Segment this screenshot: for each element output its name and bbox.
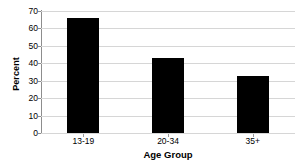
plot-area <box>41 11 295 133</box>
y-axis-tick-label: 10 <box>21 111 38 120</box>
y-axis-tick-mark <box>38 11 41 12</box>
grid-line <box>41 11 295 12</box>
y-axis-tick-label: 50 <box>21 42 38 51</box>
y-axis-tick-label: 60 <box>21 24 38 33</box>
y-axis-tick-label: 20 <box>21 94 38 103</box>
bar <box>152 58 184 133</box>
y-axis-tick-label: 40 <box>21 59 38 68</box>
bar <box>237 76 269 133</box>
bar-chart-figure: Percent 010203040506070 13-1920-3435+ Ag… <box>0 0 305 165</box>
y-axis-tick-label: 30 <box>21 76 38 85</box>
x-axis-tick-mark <box>253 134 254 137</box>
x-axis-tick-mark <box>83 134 84 137</box>
bar <box>67 18 99 133</box>
y-axis-tick-mark <box>38 63 41 64</box>
y-axis-tick-mark <box>38 98 41 99</box>
y-axis-tick-mark <box>38 116 41 117</box>
x-axis-title: Age Group <box>41 149 295 160</box>
y-axis-tick-mark <box>38 81 41 82</box>
x-axis-tick-mark <box>168 134 169 137</box>
y-axis-tick-label: 0 <box>21 129 38 138</box>
y-axis-tick-label: 70 <box>21 7 38 16</box>
y-axis-tick-mark <box>38 28 41 29</box>
y-axis-tick-mark <box>38 46 41 47</box>
y-axis-tick-mark <box>38 133 41 134</box>
y-axis-tick-labels: 010203040506070 <box>20 0 38 165</box>
